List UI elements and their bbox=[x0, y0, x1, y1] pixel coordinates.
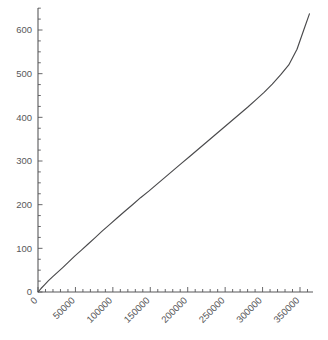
x-axis-tick-label: 0 bbox=[28, 295, 40, 307]
chart-figure: 0100200300400500600050000100000150000200… bbox=[0, 0, 328, 340]
chart-canvas: 0100200300400500600050000100000150000200… bbox=[0, 0, 328, 340]
x-axis-tick-label: 150000 bbox=[122, 295, 152, 325]
x-axis-tick-label: 350000 bbox=[271, 295, 301, 325]
data-series-line bbox=[38, 14, 309, 292]
x-axis-tick-label: 250000 bbox=[196, 295, 226, 325]
y-axis-tick-label: 200 bbox=[16, 199, 32, 210]
y-axis-tick-label: 300 bbox=[16, 155, 32, 166]
y-axis-tick-label: 600 bbox=[16, 24, 32, 35]
x-axis-tick-label: 200000 bbox=[159, 295, 189, 325]
x-axis-tick-label: 50000 bbox=[50, 295, 76, 321]
y-axis-tick-label: 500 bbox=[16, 68, 32, 79]
y-axis-tick-label: 400 bbox=[16, 112, 32, 123]
x-axis-tick-label: 300000 bbox=[234, 295, 264, 325]
x-axis-tick-label: 100000 bbox=[84, 295, 114, 325]
y-axis-tick-label: 100 bbox=[16, 243, 32, 254]
